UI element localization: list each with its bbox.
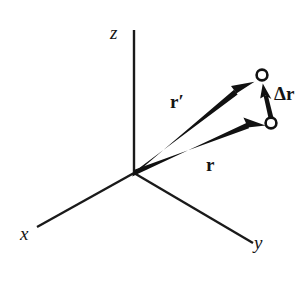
vector-diagram-figure: z x y r′ r Δr	[0, 0, 307, 282]
y-axis-label: y	[254, 233, 262, 252]
point-upper-marker	[257, 70, 268, 81]
vector-r	[132, 118, 265, 177]
vector-r-label: r	[206, 155, 214, 174]
y-axis-line	[134, 173, 253, 243]
vector-delta-r-label: Δr	[274, 84, 294, 103]
x-axis-line	[37, 173, 134, 227]
vector-r-prime-arrowhead	[229, 82, 255, 99]
vector-r-prime-label: r′	[170, 92, 184, 111]
vector-r-shaft	[132, 123, 249, 177]
point-lower-marker	[266, 118, 277, 129]
x-axis-label: x	[20, 224, 28, 243]
vector-delta-r	[260, 84, 273, 119]
vector-r-prime-shaft	[133, 90, 238, 176]
vector-delta-r-shaft	[264, 95, 274, 118]
vector-r-prime-label-mark: ′	[178, 91, 183, 112]
z-axis-label: z	[110, 23, 117, 42]
